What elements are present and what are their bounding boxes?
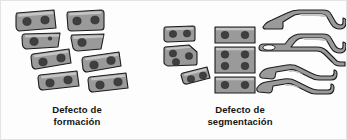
vertebra-block-3 xyxy=(31,49,71,69)
bony-bar-1 xyxy=(263,10,346,29)
vertebra-block-1 xyxy=(16,10,56,31)
bony-bar-3 xyxy=(260,65,337,80)
figure-container: .shp { fill: #9a9a9a; stroke: #1c1c1c; s… xyxy=(0,0,347,140)
caption-segmentacion-line2: segmentación xyxy=(175,116,305,128)
caption-formacion-line2: formación xyxy=(15,116,139,128)
panel-segmentacion xyxy=(164,10,346,94)
caption-formacion: Defecto de formación xyxy=(15,104,139,127)
vertebra-block-11 xyxy=(181,67,210,84)
panel-formacion xyxy=(16,10,128,92)
vertebra-block-9 xyxy=(164,26,195,42)
segmentacion-bar-cluster xyxy=(257,10,346,94)
fused-block-3 xyxy=(215,77,255,93)
fused-block-1 xyxy=(215,27,255,43)
segmentacion-left-cluster xyxy=(164,26,210,84)
vertebra-block-4 xyxy=(38,71,79,90)
segmentacion-middle-cluster xyxy=(215,27,255,93)
vertebra-block-10 xyxy=(164,45,197,66)
vertebra-block-2 xyxy=(22,33,60,49)
vertebra-block-5 xyxy=(67,10,104,31)
caption-formacion-line1: Defecto de xyxy=(15,104,139,116)
bony-bar-2 xyxy=(259,34,346,66)
vertebra-block-7 xyxy=(82,52,121,72)
caption-segmentacion: Defecto de segmentación xyxy=(175,104,305,127)
vertebra-block-8 xyxy=(88,73,128,92)
vertebra-block-6 xyxy=(71,34,104,51)
caption-segmentacion-line1: Defecto de xyxy=(175,104,305,116)
bony-bar-4 xyxy=(257,79,334,94)
fused-block-2 xyxy=(215,47,255,73)
